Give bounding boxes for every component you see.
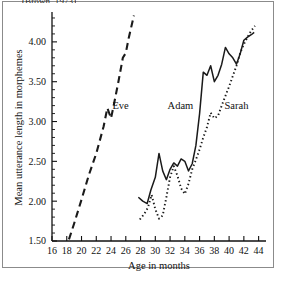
x-tick-label: 42 xyxy=(239,245,249,256)
y-tick-label: 1.50 xyxy=(29,235,47,246)
y-tick-label: 2.50 xyxy=(29,156,47,167)
y-tick-label: 2.00 xyxy=(29,196,47,207)
mlu-growth-chart: 1.502.002.503.003.504.001618202224262830… xyxy=(0,0,290,282)
x-tick-label: 24 xyxy=(106,245,116,256)
x-axis-title: Age in months xyxy=(128,260,190,271)
series-label-eve: Eve xyxy=(112,100,129,111)
x-tick-label: 30 xyxy=(150,245,160,256)
figure-container: (Brown, 1973) 1.502.002.503.003.504.0016… xyxy=(0,0,290,282)
x-tick-label: 26 xyxy=(121,245,131,256)
x-tick-label: 38 xyxy=(209,245,219,256)
series-label-adam: Adam xyxy=(168,100,194,111)
series-line-adam xyxy=(138,32,254,203)
x-tick-label: 44 xyxy=(254,245,264,256)
y-tick-label: 3.00 xyxy=(29,116,47,127)
chart-series xyxy=(69,16,255,240)
x-tick-label: 34 xyxy=(180,245,190,256)
x-tick-label: 28 xyxy=(136,245,146,256)
x-tick-label: 20 xyxy=(77,245,87,256)
y-tick-label: 4.00 xyxy=(29,36,47,47)
x-tick-label: 32 xyxy=(165,245,175,256)
x-tick-label: 40 xyxy=(224,245,234,256)
x-tick-label: 36 xyxy=(195,245,205,256)
x-tick-label: 16 xyxy=(47,245,57,256)
x-tick-label: 18 xyxy=(62,245,72,256)
series-line-eve xyxy=(69,16,134,240)
series-line-sarah xyxy=(140,26,255,220)
x-tick-label: 22 xyxy=(91,245,101,256)
series-label-sarah: Sarah xyxy=(225,100,250,111)
chart-axes: 1.502.002.503.003.504.001618202224262830… xyxy=(29,12,267,256)
chart-labels: Age in monthsMean utterance length in mo… xyxy=(13,49,249,271)
y-tick-label: 3.50 xyxy=(29,76,47,87)
y-axis-title: Mean utterance length in morphemes xyxy=(13,49,24,205)
